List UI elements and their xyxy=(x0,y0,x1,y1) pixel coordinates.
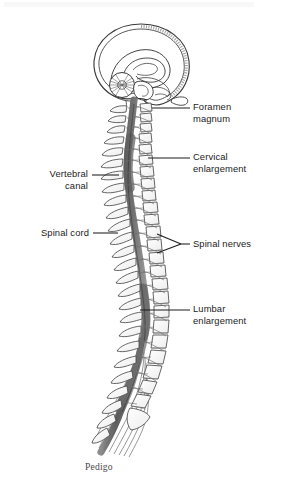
spinous-process xyxy=(106,207,128,219)
figure-page: Foramen magnum Cervical enlargement Spin… xyxy=(0,0,284,493)
vertebral-body xyxy=(139,144,152,154)
vertebral-body xyxy=(149,252,164,264)
label-lumbar-enlargement: Lumbar enlargement xyxy=(193,303,246,326)
vertebral-body-sacrum xyxy=(127,408,150,430)
figure-caption: Pedigo xyxy=(85,461,113,472)
spinous-process xyxy=(104,195,126,206)
vertebral-body xyxy=(140,123,152,132)
spinous-process xyxy=(102,148,123,156)
vertebral-body xyxy=(140,113,152,122)
vertebral-body xyxy=(151,335,168,348)
spinous-processes-posterior xyxy=(92,106,142,443)
spinous-process xyxy=(110,232,132,245)
spinous-process xyxy=(118,284,140,297)
spinous-process xyxy=(107,126,125,133)
spinous-process xyxy=(108,219,130,232)
spinous-process xyxy=(120,312,142,323)
occipital-protuberance xyxy=(171,97,188,105)
spinous-process xyxy=(114,258,136,271)
vertebral-body xyxy=(143,202,158,213)
spinous-process xyxy=(116,271,138,284)
skull-group xyxy=(94,24,189,112)
label-spinal-nerves: Spinal nerves xyxy=(193,238,251,250)
spinous-process xyxy=(117,341,139,352)
spinous-process xyxy=(119,326,141,337)
vertebral-body xyxy=(138,380,157,394)
label-vertebral-canal: Vertebral canal xyxy=(0,168,88,191)
cerebellum xyxy=(110,73,135,98)
vertebral-body xyxy=(143,365,162,379)
spinous-process xyxy=(101,159,123,168)
vertebral-body xyxy=(147,239,162,251)
vertebral-body xyxy=(153,320,169,333)
vertebral-body xyxy=(144,214,159,225)
spinous-process xyxy=(104,137,124,144)
vertebral-body xyxy=(139,155,153,165)
spinous-process xyxy=(112,245,134,258)
spinous-process xyxy=(108,116,126,123)
vertebral-body xyxy=(146,226,161,238)
vertebral-body xyxy=(150,265,166,277)
spinous-process xyxy=(119,298,141,310)
label-spinal-cord: Spinal cord xyxy=(0,227,89,239)
label-foramen-magnum: Foramen magnum xyxy=(193,101,231,124)
label-cervical-enlargement: Cervical enlargement xyxy=(193,151,246,174)
spinous-process xyxy=(102,183,124,193)
spinous-process xyxy=(110,106,127,113)
